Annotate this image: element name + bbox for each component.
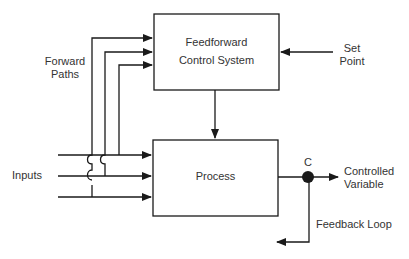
forward-paths-label-line1: Forward: [40, 55, 90, 68]
forward-paths-label-line2: Paths: [40, 68, 90, 81]
feedforward-label-line1: Feedforward: [154, 36, 279, 49]
junction-c-node: [302, 171, 314, 183]
forward-path-1-upper: [88, 38, 153, 180]
junction-c-label: C: [304, 156, 312, 169]
set-point-label-line2: Point: [332, 55, 372, 68]
feedforward-block-label: Feedforward Control System: [154, 36, 279, 67]
feedforward-label-line2: Control System: [154, 54, 279, 67]
inputs-label: Inputs: [12, 169, 42, 182]
feedback-loop-arrow: [277, 177, 309, 242]
feedback-loop-label: Feedback Loop: [316, 218, 392, 231]
forward-paths-label: Forward Paths: [40, 55, 90, 81]
forward-path-2: [101, 52, 153, 176]
set-point-label-line1: Set: [332, 42, 372, 55]
controlled-variable-label: Controlled Variable: [344, 165, 394, 191]
forward-path-3: [119, 65, 152, 155]
controlled-variable-label-line2: Variable: [344, 178, 394, 191]
controlled-variable-label-line1: Controlled: [344, 165, 394, 178]
process-block-label: Process: [153, 170, 278, 183]
set-point-label: Set Point: [332, 42, 372, 68]
